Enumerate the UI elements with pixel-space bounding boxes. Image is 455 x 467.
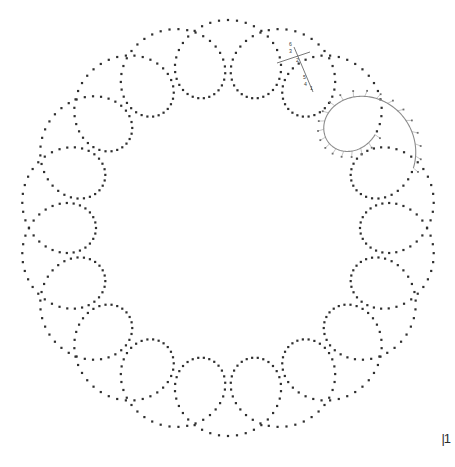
figure-canvas: 632541 |1 (0, 0, 455, 467)
construction-label-6: 6 (289, 41, 292, 47)
construction-label-4: 4 (304, 81, 307, 87)
construction-label-2: 2 (296, 57, 299, 63)
construction-label-3: 3 (289, 48, 292, 54)
construction-label-5: 5 (303, 74, 306, 80)
highlight-tick-dots (317, 90, 422, 173)
epitrochoid-curve-svg: 632541 (0, 0, 455, 467)
construction-label-1: 1 (310, 85, 313, 91)
dotted-curve-points (21, 19, 435, 437)
highlight-tick-marks (318, 91, 421, 172)
highlighted-loop (324, 96, 416, 168)
page-corner-mark: |1 (441, 432, 450, 445)
